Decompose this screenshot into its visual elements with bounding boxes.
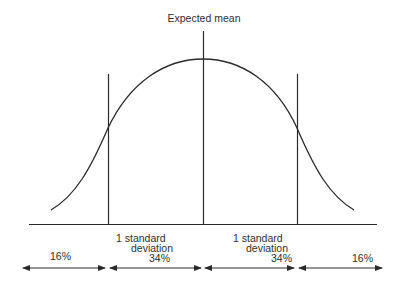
left-inner-percent: 34% bbox=[149, 253, 170, 264]
left-tail-percent: 16% bbox=[50, 251, 71, 262]
expected-mean-label: Expected mean bbox=[163, 13, 245, 24]
normal-distribution-diagram bbox=[0, 0, 402, 283]
bell-curve bbox=[51, 59, 354, 210]
right-inner-percent: 34% bbox=[271, 253, 292, 264]
right-tail-percent: 16% bbox=[352, 253, 373, 264]
